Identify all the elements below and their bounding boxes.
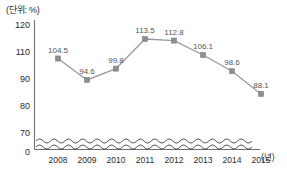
y-tick-label: 90: [20, 74, 30, 84]
x-tick-label: 2012: [165, 155, 184, 165]
y-tick-label: 120: [15, 20, 30, 30]
chart-canvas: 120 110 90 80 70 0 104.594.699.8113.5112…: [0, 0, 287, 179]
data-point-value: 99.8: [108, 56, 124, 65]
series-value-labels: 104.594.699.8113.5112.8106.198.688.1: [48, 26, 269, 90]
x-tick-label: 2013: [194, 155, 213, 165]
y-tick-label: 110: [16, 47, 30, 57]
x-tick-label: 2015: [252, 155, 271, 165]
x-tick-label: 2014: [223, 155, 242, 165]
data-point-marker: [171, 38, 176, 43]
x-tick-label: 2011: [136, 155, 155, 165]
data-point-value: 113.5: [135, 26, 155, 35]
data-point-value: 104.5: [48, 46, 69, 55]
data-point-value: 88.1: [253, 81, 269, 90]
x-tick-label: 2010: [107, 155, 126, 165]
data-point-marker: [84, 77, 89, 82]
data-point-value: 106.1: [193, 42, 214, 51]
data-point-value: 112.8: [164, 28, 184, 37]
y-tick-label: 80: [20, 101, 30, 111]
y-tick-label: 0: [25, 147, 30, 157]
data-point-marker: [229, 69, 234, 74]
y-axis-tick-labels: 120 110 90 80 70 0: [15, 20, 30, 157]
data-point-marker: [55, 56, 60, 61]
x-tick-label: 2008: [49, 155, 68, 165]
axis-break-squiggle: [36, 139, 252, 149]
data-point-marker: [258, 91, 263, 96]
data-point-value: 98.6: [224, 58, 240, 67]
data-point-value: 94.6: [79, 67, 95, 76]
x-axis-tick-labels: 2008 2009 2010 2011 2012 2013 2014 2015: [49, 155, 271, 165]
data-point-marker: [142, 36, 147, 41]
data-point-marker: [200, 52, 205, 57]
y-tick-label: 70: [20, 128, 30, 138]
data-point-marker: [113, 66, 118, 71]
line-chart: (단위: %) (년) 120 110 90 80 70 0 104.594.6…: [0, 0, 287, 179]
x-tick-label: 2009: [78, 155, 97, 165]
